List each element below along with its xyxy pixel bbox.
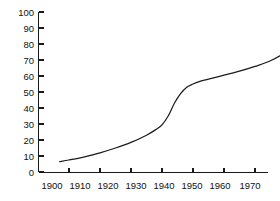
x-tick-label: 1910 [69, 180, 90, 191]
y-tick-label: 90 [23, 23, 34, 34]
y-tick-label: 100 [18, 7, 34, 18]
y-tick-label: 80 [23, 39, 34, 50]
plot-background [0, 0, 280, 201]
x-tick-label: 1900 [41, 180, 62, 191]
x-tick-label: 1960 [209, 180, 230, 191]
y-tick-label: 0 [29, 167, 34, 178]
chart-figure: 100 90 80 70 60 50 40 30 20 10 0 1900 19… [0, 0, 280, 201]
x-tick-label: 1940 [153, 180, 174, 191]
y-tick-label: 40 [23, 103, 34, 114]
y-tick-label: 60 [23, 71, 34, 82]
x-tick-label: 1930 [125, 180, 146, 191]
y-tick-label: 20 [23, 135, 34, 146]
x-tick-label: 1920 [97, 180, 118, 191]
y-tick-label: 70 [23, 55, 34, 66]
y-tick-label: 10 [23, 151, 34, 162]
y-tick-label: 50 [23, 87, 34, 98]
x-tick-label: 1950 [181, 180, 202, 191]
y-tick-label: 30 [23, 119, 34, 130]
x-tick-label: 1970 [239, 180, 260, 191]
line-chart: 100 90 80 70 60 50 40 30 20 10 0 1900 19… [0, 0, 280, 201]
